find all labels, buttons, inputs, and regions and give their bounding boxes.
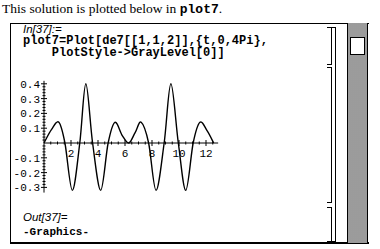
svg-text:-0.2: -0.2: [14, 168, 40, 180]
svg-text:0.1: 0.1: [20, 123, 40, 135]
svg-text:12: 12: [199, 148, 212, 160]
output-value: -Graphics-: [23, 226, 89, 238]
vertical-scrollbar[interactable]: [347, 23, 368, 243]
svg-text:6: 6: [122, 148, 129, 160]
graphics-cell-bracket[interactable]: [327, 67, 332, 203]
output-label: Out[37]=: [23, 211, 67, 223]
svg-text:-0.3: -0.3: [14, 182, 40, 194]
svg-text:0.4: 0.4: [20, 79, 40, 91]
svg-text:2: 2: [68, 148, 75, 160]
scrollbar-thumb[interactable]: [350, 37, 365, 55]
svg-text:0.3: 0.3: [20, 94, 40, 106]
output-cell-bracket[interactable]: [327, 207, 332, 242]
svg-text:4: 4: [95, 148, 102, 160]
svg-text:-0.1: -0.1: [14, 153, 41, 165]
svg-text:0.2: 0.2: [20, 108, 40, 120]
